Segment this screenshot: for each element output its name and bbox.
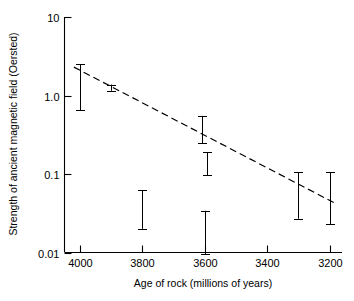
y-axis-tick-label: 1.0	[44, 91, 59, 103]
x-axis-tick-label: 3800	[130, 257, 154, 269]
x-axis-title: Age of rock (millions of years)	[134, 277, 272, 289]
y-axis-tick-label: 0.1	[44, 169, 59, 181]
y-axis-tick-label: 10	[47, 12, 59, 24]
y-axis-tick-label: 0.01	[38, 248, 59, 260]
x-axis-tick-label: 3200	[318, 257, 342, 269]
chart-figure: 101.00.10.01 40003800360034003200 Age of…	[0, 0, 354, 301]
x-axis-tick-label: 3400	[255, 257, 279, 269]
x-axis-tick-label: 4000	[68, 257, 92, 269]
paleointensity-scatter-chart: 101.00.10.01 40003800360034003200 Age of…	[0, 0, 354, 301]
y-axis-title: Strength of ancient magnetic field (Oers…	[7, 32, 19, 235]
x-axis-tick-label: 3600	[193, 257, 217, 269]
